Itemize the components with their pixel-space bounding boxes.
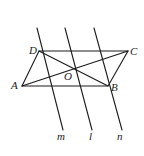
- line-n: [94, 28, 122, 130]
- label-line-m: m: [57, 130, 65, 142]
- diagonal-bd: [39, 51, 108, 86]
- parallelogram-diagram: A B C D O m l n: [0, 0, 144, 156]
- label-point-c: C: [130, 45, 138, 57]
- label-line-l: l: [89, 130, 92, 142]
- label-point-o: O: [64, 70, 72, 82]
- line-m: [37, 28, 63, 130]
- label-line-n: n: [117, 130, 123, 142]
- label-point-b: B: [111, 81, 118, 93]
- label-point-d: D: [28, 44, 37, 56]
- label-point-a: A: [10, 79, 18, 91]
